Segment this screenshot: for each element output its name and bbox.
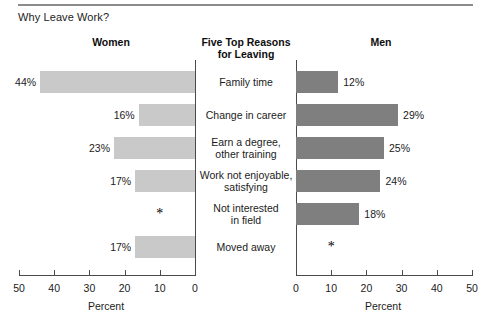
value-label-women-2: 23% bbox=[89, 137, 110, 159]
column-heading-center: Five Top Reasons for Leaving bbox=[196, 36, 296, 60]
category-label-5-line-0: Moved away bbox=[196, 241, 296, 253]
bar-women-1 bbox=[139, 104, 195, 126]
category-label-2-line-0: Earn a degree, bbox=[196, 136, 296, 148]
tick-men-20 bbox=[366, 270, 367, 275]
value-label-women-1: 16% bbox=[114, 104, 135, 126]
tick-label-men-40: 40 bbox=[425, 282, 449, 294]
tick-label-women-50: 50 bbox=[7, 282, 31, 294]
category-label-1: Change in career bbox=[196, 109, 296, 121]
bar-men-2 bbox=[296, 137, 384, 159]
tick-label-men-10: 10 bbox=[319, 282, 343, 294]
tick-label-women-40: 40 bbox=[42, 282, 66, 294]
column-heading-men: Men bbox=[316, 36, 446, 48]
tick-men-10 bbox=[331, 270, 332, 275]
category-label-3-line-0: Work not enjoyable, bbox=[196, 169, 296, 181]
category-label-4-line-0: Not interested bbox=[196, 202, 296, 214]
bar-women-2 bbox=[114, 137, 195, 159]
page-title: Why Leave Work? bbox=[18, 11, 109, 23]
suppressed-marker-women-4: * bbox=[150, 203, 170, 225]
bar-men-4 bbox=[296, 203, 359, 225]
category-label-3-line-1: satisfying bbox=[196, 181, 296, 193]
value-label-men-0: 12% bbox=[343, 71, 364, 93]
plot-area-men: 12%29%25%24%18%* bbox=[296, 60, 472, 275]
category-label-4-line-1: in field bbox=[196, 214, 296, 226]
x-axis-title-women: Percent bbox=[16, 300, 196, 312]
value-label-women-5: 17% bbox=[110, 236, 131, 258]
tick-label-men-30: 30 bbox=[390, 282, 414, 294]
tick-women-40 bbox=[54, 270, 55, 275]
value-label-men-3: 24% bbox=[385, 170, 406, 192]
category-label-5: Moved away bbox=[196, 241, 296, 253]
tick-women-20 bbox=[125, 270, 126, 275]
category-label-2: Earn a degree,other training bbox=[196, 136, 296, 160]
tick-women-0 bbox=[195, 270, 196, 275]
bar-men-0 bbox=[296, 71, 338, 93]
category-label-0-line-0: Family time bbox=[196, 76, 296, 88]
bar-men-3 bbox=[296, 170, 380, 192]
value-label-women-3: 17% bbox=[110, 170, 131, 192]
tick-label-men-0: 0 bbox=[284, 282, 308, 294]
tick-women-50 bbox=[19, 270, 20, 275]
category-label-1-line-0: Change in career bbox=[196, 109, 296, 121]
tick-label-women-20: 20 bbox=[113, 282, 137, 294]
category-label-3: Work not enjoyable,satisfying bbox=[196, 169, 296, 193]
tick-men-30 bbox=[402, 270, 403, 275]
suppressed-marker-men-5: * bbox=[321, 236, 341, 258]
bar-women-3 bbox=[135, 170, 195, 192]
tick-women-30 bbox=[89, 270, 90, 275]
tick-men-50 bbox=[472, 270, 473, 275]
column-heading-center-line2: for Leaving bbox=[196, 48, 296, 60]
bar-men-1 bbox=[296, 104, 398, 126]
bar-women-5 bbox=[135, 236, 195, 258]
top-rule bbox=[18, 4, 473, 6]
value-label-men-4: 18% bbox=[364, 203, 385, 225]
column-heading-women: Women bbox=[46, 36, 176, 48]
value-label-men-1: 29% bbox=[403, 104, 424, 126]
plot-area-women: 44%16%23%17%*17% bbox=[19, 60, 195, 275]
x-axis-title-men: Percent bbox=[293, 300, 473, 312]
column-heading-center-line1: Five Top Reasons bbox=[196, 36, 296, 48]
x-axis-women bbox=[19, 275, 196, 276]
tick-label-women-10: 10 bbox=[148, 282, 172, 294]
category-label-0: Family time bbox=[196, 76, 296, 88]
tick-label-women-30: 30 bbox=[77, 282, 101, 294]
value-label-women-0: 44% bbox=[15, 71, 36, 93]
tick-label-women-0: 0 bbox=[183, 282, 207, 294]
bar-women-0 bbox=[40, 71, 195, 93]
value-label-men-2: 25% bbox=[389, 137, 410, 159]
category-label-2-line-1: other training bbox=[196, 148, 296, 160]
tick-label-men-20: 20 bbox=[354, 282, 378, 294]
tick-label-men-50: 50 bbox=[460, 282, 484, 294]
chart-figure: Why Leave Work? Women Five Top Reasons f… bbox=[0, 0, 491, 324]
category-label-4: Not interestedin field bbox=[196, 202, 296, 226]
tick-women-10 bbox=[160, 270, 161, 275]
x-axis-men bbox=[296, 275, 473, 276]
tick-men-0 bbox=[296, 270, 297, 275]
tick-men-40 bbox=[437, 270, 438, 275]
